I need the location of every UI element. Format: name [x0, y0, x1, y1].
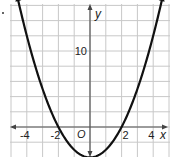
y-tick-label: 10: [75, 45, 87, 57]
x-tick-label: 4: [148, 129, 154, 141]
parabola-graph: y x O -4 -2 2 4 10: [0, 0, 170, 157]
y-axis-label: y: [94, 7, 102, 21]
origin-label: O: [77, 128, 86, 140]
x-tick-label: 2: [123, 129, 129, 141]
x-tick-label: -2: [51, 129, 61, 141]
axis-labels: y x O -4 -2 2 4 10: [20, 7, 167, 142]
axes: [10, 4, 168, 157]
y-axis-down-arrow-icon: [88, 151, 93, 157]
x-tick-label: -4: [20, 129, 30, 141]
x-axis-label: x: [159, 128, 167, 142]
